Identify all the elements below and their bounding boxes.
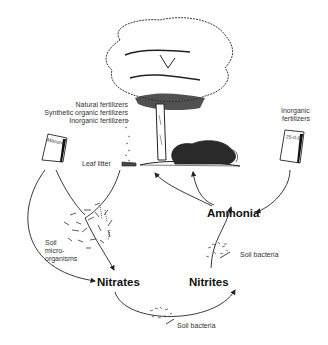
- inorganic-bag-label: 25-0-0: [286, 132, 301, 141]
- shrub-icon: [172, 141, 238, 164]
- diagram-artwork: [0, 0, 328, 345]
- arrow-manure-to-nitrates: [28, 170, 95, 281]
- soil-microorganisms-label-line2: micro-: [45, 247, 64, 255]
- arrow-manure-to-microorganisms: [56, 170, 85, 215]
- ammonia-label: Ammonia: [207, 207, 259, 219]
- arrow-ammonia-to-tree: [155, 173, 212, 206]
- soil-microorganisms-label-line1: Soil: [45, 239, 57, 247]
- soil-bacteria-label-upper: Soil bacteria: [240, 251, 279, 259]
- soil-microorganisms-cluster: [64, 203, 112, 248]
- arrow-leaf-litter-to-nitrates: [85, 170, 120, 270]
- leaf-litter-label: Leaf litter: [82, 160, 111, 168]
- soil-microorganisms-label-line3: organisms: [45, 255, 77, 263]
- nitrites-label: Nitrites: [189, 276, 229, 288]
- nitrates-label: Nitrates: [97, 276, 140, 288]
- fertilizer-source-inorganic: Inorganic fertilizers: [24, 117, 128, 125]
- inorganic-fertilizers-label-line1: Inorganic: [281, 107, 310, 115]
- arrow-nitrates-to-nitrites: [115, 290, 235, 317]
- arrow-fertilizer-to-ammonia: [256, 170, 290, 212]
- fertilizer-source-synthetic-organic: Synthetic organic fertilizers: [4, 109, 128, 117]
- fertilizer-source-natural: Natural fertilizers: [44, 101, 128, 109]
- falling-leaves: [122, 120, 136, 166]
- inorganic-fertilizers-label-line2: fertilizers: [282, 115, 310, 123]
- soil-bacteria-cluster-1: [206, 242, 230, 258]
- cycle-arrows: [28, 170, 290, 317]
- arrow-ammonia-to-shrub: [193, 172, 214, 205]
- soil-bacteria-label-lower: Soil bacteria: [177, 322, 216, 330]
